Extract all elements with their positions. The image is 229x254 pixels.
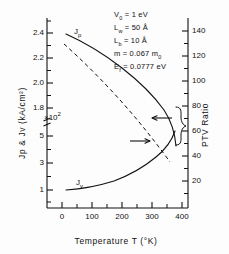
curve-label-jv: Jv bbox=[76, 178, 83, 189]
annotation-ef-value: = 0.0777 eV bbox=[123, 62, 166, 71]
x-tick-200: 200 bbox=[107, 212, 137, 221]
annotation-v0-value: = 1 eV bbox=[125, 10, 148, 19]
x-tick-0: 0 bbox=[47, 212, 77, 221]
right-brace bbox=[176, 107, 186, 145]
y-right-tick-120: 120 bbox=[192, 51, 218, 60]
x-tick-300: 300 bbox=[137, 212, 167, 221]
annotation-lb-value: = 10 Å bbox=[124, 36, 147, 45]
annotation-ef-sub: f bbox=[119, 67, 121, 73]
annotation-line-lb: Lb = 10 Å bbox=[114, 36, 166, 49]
multiplier-base: ×10 bbox=[44, 113, 58, 122]
x-axis-title: Temperature T (°K) bbox=[36, 236, 196, 246]
annotation-m-symbol: m bbox=[114, 49, 120, 58]
annotation-line-v0: V0 = 1 eV bbox=[114, 10, 166, 23]
axis-multiplier: ×102 bbox=[44, 111, 61, 122]
annotation-line-lw: Lw = 50 Å bbox=[114, 23, 166, 36]
annotation-m-sub-tail: 0 bbox=[158, 54, 161, 60]
annotation-lb-sub: b bbox=[118, 41, 121, 47]
curve-label-jv-sub: v bbox=[80, 183, 83, 189]
x-tick-100: 100 bbox=[77, 212, 107, 221]
annotation-line-ef: Ef = 0.0777 eV bbox=[114, 62, 166, 75]
annotation-m-value: = 0.067 m bbox=[123, 49, 158, 58]
right-axis-minor-ticks bbox=[184, 44, 188, 194]
x-axis-ticks bbox=[62, 202, 182, 208]
curve-label-jp-sub: p bbox=[78, 32, 81, 38]
y-axis-right-title: PTV Ratio bbox=[200, 70, 210, 180]
annotation-line-m: m = 0.067 m0 bbox=[114, 49, 166, 62]
annotation-v0-sub: 0 bbox=[119, 15, 122, 21]
right-pointing-arrow-icon bbox=[130, 139, 150, 143]
x-tick-400: 400 bbox=[167, 212, 197, 221]
curve-label-jp: Jp bbox=[74, 27, 81, 38]
multiplier-exponent: 2 bbox=[58, 111, 61, 117]
annotation-lw-sub: w bbox=[118, 28, 122, 34]
figure-panel: 2.4 2.2 2.0 1.8 5 3 1 ×102 140 120 100 8… bbox=[0, 0, 229, 254]
y-axis-left-title: Jp & Jv (kA/cm²) bbox=[17, 53, 27, 193]
parameter-annotations: V0 = 1 eV Lw = 50 Å Lb = 10 Å m = 0.067 … bbox=[114, 10, 166, 75]
right-axis-ticks bbox=[182, 31, 188, 181]
y-right-tick-140: 140 bbox=[192, 26, 218, 35]
y-left-tick-2-4: 2.4 bbox=[18, 28, 44, 37]
annotation-lw-value: = 50 Å bbox=[125, 23, 148, 32]
